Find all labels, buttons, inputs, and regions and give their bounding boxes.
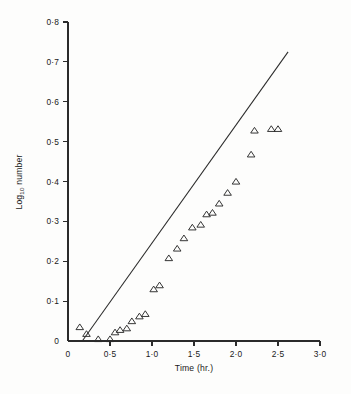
data-point-marker [232,178,240,184]
data-point-marker [274,126,282,132]
figure-canvas: 00·10·20·30·40·50·60·70·8 00·51·01·52·02… [0,0,351,394]
data-point-marker [251,127,259,133]
svg-text:Log10 number: Log10 number [14,154,25,209]
scatter-plot: 00·10·20·30·40·50·60·70·8 00·51·01·52·02… [0,0,351,394]
data-point-marker [123,325,131,331]
y-axis-tick-group [63,22,68,301]
data-point-marker [267,126,275,132]
y-tick-label: 0·5 [46,137,59,147]
y-tick-label: 0·8 [46,17,59,27]
fitted-line-group [82,52,288,341]
y-axis-title: Log10 number [14,154,25,209]
data-point-marker [189,224,197,230]
y-tick-label: 0·7 [46,57,59,67]
y-axis-tick-labels: 00·10·20·30·40·50·60·70·8 [46,17,59,346]
y-axis-title-tail: number [14,154,24,187]
x-axis-title: Time (hr.) [175,363,213,373]
data-point-marker [197,221,205,227]
y-tick-label: 0·6 [46,97,59,107]
x-axis-tick-labels: 00·51·01·52·02·53·0 [66,349,327,359]
data-point-marker [209,210,217,216]
data-point-marker [156,282,164,288]
data-point-marker [173,245,181,251]
data-point-marker [165,255,173,261]
data-point-marker [128,318,136,324]
x-tick-label: 2·5 [272,349,285,359]
x-tick-label: 3·0 [314,349,327,359]
data-point-marker [141,311,149,317]
y-tick-label: 0·1 [46,296,59,306]
data-marker-group [76,126,282,342]
x-axis-tick-group [110,341,320,346]
x-tick-label: 0·5 [104,349,117,359]
y-axis-title-main: Log [14,195,24,210]
data-point-marker [215,200,223,206]
data-point-marker [180,235,188,241]
fitted-line [82,52,288,341]
y-tick-label: 0 [54,336,59,346]
x-tick-label: 0 [66,349,71,359]
data-point-marker [224,190,232,196]
data-point-marker [247,151,255,157]
x-tick-label: 1·5 [188,349,201,359]
y-tick-label: 0·3 [46,216,59,226]
data-point-marker [76,324,84,330]
x-tick-label: 1·0 [146,349,159,359]
x-tick-label: 2·0 [230,349,243,359]
y-tick-label: 0·4 [46,177,59,187]
y-tick-label: 0·2 [46,256,59,266]
data-point-marker [116,327,124,333]
